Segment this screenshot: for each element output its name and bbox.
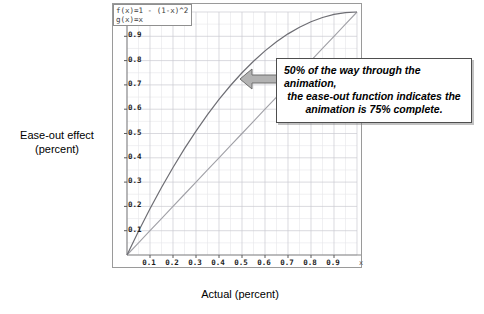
y-tick-label: 0.4 — [128, 152, 142, 161]
y-tick-label: 0.6 — [128, 103, 142, 112]
y-axis-title: Ease-out effect (percent) — [8, 128, 106, 156]
x-axis-variable-label: x — [359, 259, 363, 267]
y-tick-label: 0.8 — [128, 55, 142, 64]
plot-canvas — [113, 4, 363, 269]
x-tick-label: 0.4 — [206, 258, 230, 267]
chart-card: Ease-out effect (percent) f(x)=1 - (1-x)… — [0, 0, 484, 314]
plot-area — [112, 3, 362, 268]
x-tick-label: 0.8 — [298, 258, 322, 267]
legend: f(x)=1 - (1-x)^2 g(x)=x — [113, 4, 192, 26]
y-tick-label: 0.7 — [128, 79, 142, 88]
y-tick-label: 0.1 — [128, 225, 142, 234]
left-arrow-icon — [239, 66, 279, 92]
x-tick-label: 0.9 — [321, 258, 345, 267]
y-tick-label: 0.2 — [128, 200, 142, 209]
annotation-callout: 50% of the way through the animation, th… — [276, 58, 472, 123]
x-tick-label: 0.2 — [160, 258, 184, 267]
legend-entry-1: g(x)=x — [116, 15, 188, 24]
callout-line-2: the ease-out function indicates the — [284, 90, 464, 103]
y-tick-label: 0.3 — [128, 176, 142, 185]
x-tick-label: 0.3 — [183, 258, 207, 267]
legend-entry-0: f(x)=1 - (1-x)^2 — [116, 6, 188, 15]
x-axis-title: Actual (percent) — [110, 288, 370, 300]
x-tick-label: 0.6 — [252, 258, 276, 267]
y-tick-label: 0.9 — [128, 30, 142, 39]
callout-line-1: 50% of the way through the animation, — [284, 64, 464, 90]
y-tick-label: 0.5 — [128, 128, 142, 137]
x-tick-label: 0.1 — [137, 258, 161, 267]
y-axis-title-line1: Ease-out effect — [8, 128, 106, 142]
callout-line-3: animation is 75% complete. — [284, 103, 464, 116]
x-tick-label: 0.5 — [229, 258, 253, 267]
y-axis-title-line2: (percent) — [8, 142, 106, 156]
x-tick-label: 0.7 — [275, 258, 299, 267]
